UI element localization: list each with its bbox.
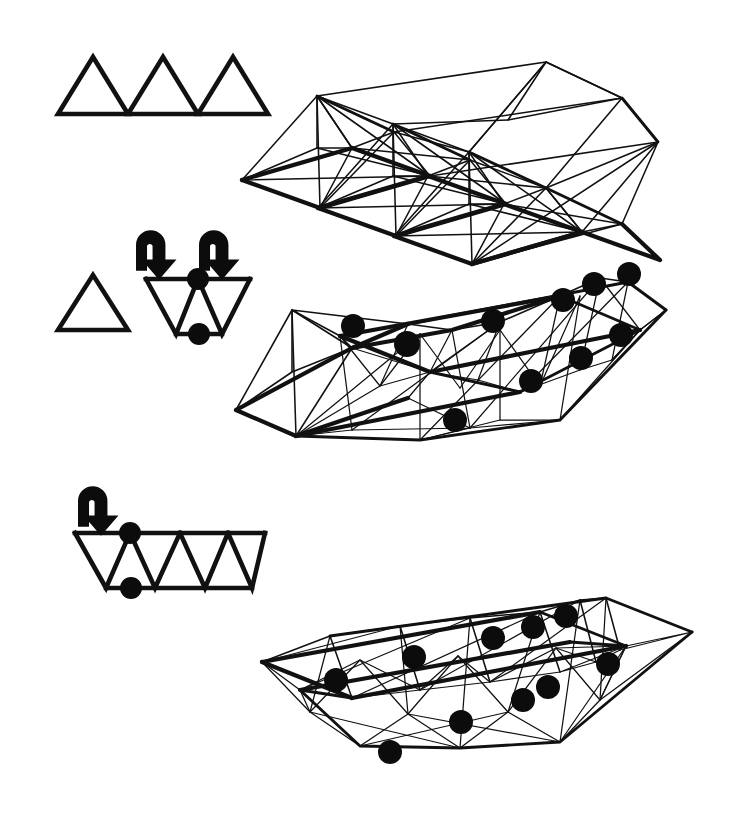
hinge-node-icon [481, 309, 505, 333]
hinge-node-icon [324, 668, 348, 692]
hinge-node-icon [582, 272, 606, 296]
hinge-node-icon [511, 688, 535, 712]
hinge-node-icon [402, 645, 426, 669]
hinge-node-icon [481, 626, 505, 650]
hinge-node-icon [521, 615, 545, 639]
hinge-node-icon [119, 522, 141, 544]
folding-sequence-diagram: Folding sequence of a deployable double-… [0, 0, 744, 822]
hinge-node-icon [341, 314, 365, 338]
hinge-node-icon [394, 331, 420, 357]
figure-title: Folding sequence of a deployable double-… [4, 4, 292, 14]
hinge-node-icon [443, 408, 467, 432]
stage-1-label: Stage 1 - fully deployed [4, 16, 98, 26]
stage-2-label: Stage 2 - partially folded [4, 28, 101, 38]
hinge-node-icon [617, 262, 641, 286]
hinge-node-icon [187, 268, 209, 290]
hinge-node-icon [519, 369, 543, 393]
hinge-node-icon [536, 675, 560, 699]
hinge-node-icon [378, 740, 402, 764]
hinge-node-icon [609, 323, 633, 347]
hinge-node-icon [188, 323, 210, 345]
hinge-node-icon [569, 346, 593, 370]
hinge-node-icon [120, 577, 142, 599]
hinge-node-icon [554, 604, 578, 628]
figure-root: Folding sequence of a deployable double-… [0, 0, 744, 822]
hinge-node-icon [449, 710, 473, 734]
hinge-node-icon [551, 288, 575, 312]
stage-3-label: Stage 3 - fully folded [4, 40, 86, 50]
hinge-node-icon [596, 652, 620, 676]
